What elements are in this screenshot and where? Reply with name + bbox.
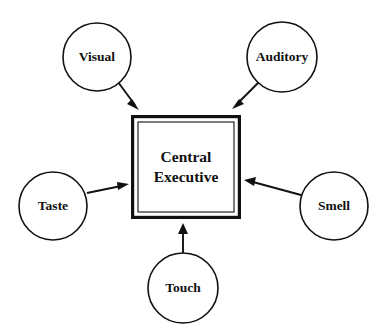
arrow-smell-to-center (244, 177, 301, 195)
arrow-visual-head (127, 99, 139, 110)
smell-label: Smell (318, 198, 350, 213)
node-auditory[interactable]: Auditory (247, 22, 317, 92)
arrow-visual-to-center (118, 82, 139, 110)
node-smell[interactable]: Smell (300, 172, 368, 240)
central-executive-node[interactable]: Central Executive (133, 117, 240, 218)
arrow-auditory-head (232, 99, 244, 109)
taste-label: Taste (38, 198, 68, 213)
arrow-taste-head (117, 182, 129, 190)
arrow-taste-line (87, 186, 121, 193)
arrow-auditory-to-center (232, 82, 259, 109)
central-executive-label-line2: Executive (154, 168, 219, 185)
central-executive-diagram: Central Executive Visual Auditory Taste … (0, 0, 381, 334)
arrow-smell-line (253, 182, 301, 195)
central-executive-label-line1: Central (161, 148, 212, 165)
arrow-smell-head (244, 177, 256, 186)
touch-label: Touch (165, 280, 201, 295)
arrow-taste-to-center (87, 182, 129, 193)
auditory-label: Auditory (256, 49, 309, 64)
arrow-touch-head (178, 223, 188, 234)
arrow-touch-to-center (178, 223, 188, 253)
diagram-canvas: Central Executive Visual Auditory Taste … (0, 0, 381, 334)
visual-label: Visual (79, 49, 116, 64)
node-taste[interactable]: Taste (19, 172, 87, 240)
node-touch[interactable]: Touch (148, 253, 218, 323)
node-visual[interactable]: Visual (63, 23, 131, 91)
